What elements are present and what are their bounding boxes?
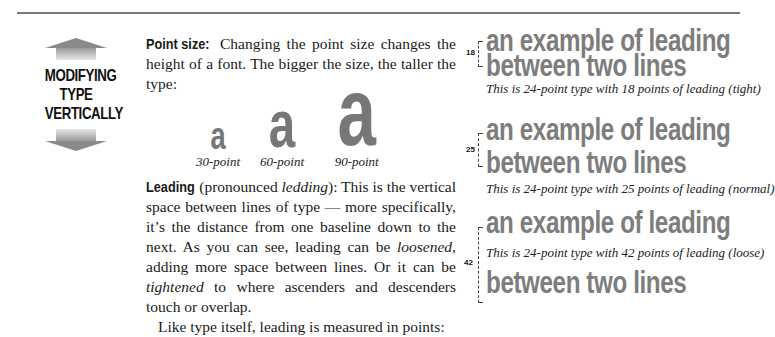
leading-example-tight: an example of leading between two lines … [486,28,766,97]
specimen-glyph: a [266,98,298,151]
leading-heading: Leading [146,177,195,197]
pronunciation: ledding [282,178,329,195]
top-rule [17,12,740,14]
specimen-90pt: a 90-point [330,74,383,170]
section-heading-block: MODIFYING TYPE VERTICALLY [36,38,116,151]
leading-bracket [478,133,483,167]
example-line-1: an example of leading [486,207,704,239]
specimen-60pt: a 60-point [260,98,304,170]
leading-text: adding more space between lines. Or it c… [146,258,456,275]
arrow-down-icon [45,129,107,151]
example-line-2: between two lines [486,267,704,299]
leading-example-normal: an example of leading between two lines … [486,113,766,197]
point-size-specimens: a 30-point a 60-point a 90-point [146,70,456,170]
arrow-up-icon [45,38,107,60]
example-line-2: between two lines [486,146,704,179]
leading-value: 42 [464,258,473,267]
leading-bracket [478,227,483,303]
section-title: MODIFYING TYPE VERTICALLY [45,66,107,123]
example-caption: This is 24-point type with 25 points of … [486,181,766,197]
example-caption: This is 24-point type with 18 points of … [486,81,766,97]
example-line-1: an example of leading [486,113,704,146]
specimen-glyph: a [337,74,375,151]
specimen-glyph: a [202,121,234,151]
example-caption: This is 24-point type with 42 points of … [486,245,766,261]
leading-value: 25 [466,145,475,154]
leading-closing: Like type itself, leading is measured in… [146,317,456,337]
leading-section: Leading (pronounced ledding): This is th… [146,177,456,337]
section-title-line: TYPE [45,85,107,104]
specimen-30pt: a 30-point [196,121,240,170]
point-size-heading: Point size: [146,34,210,54]
leading-example-loose: an example of leading This is 24-point t… [486,207,766,299]
section-title-line: MODIFYING [45,66,107,85]
leading-paragraph: Leading (pronounced ledding): This is th… [146,177,456,317]
leading-text: (pronounced [195,178,281,195]
term-tightened: tightened [146,278,204,295]
example-line-2: between two lines [486,53,704,78]
term-loosened: loosened, [397,238,456,255]
leading-value: 18 [466,48,475,57]
leading-bracket [478,41,483,67]
section-title-line: VERTICALLY [45,104,107,123]
